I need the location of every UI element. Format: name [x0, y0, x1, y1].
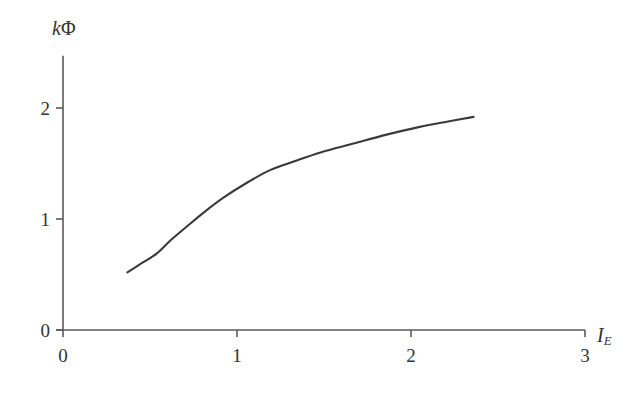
y-axis-tick-label: 0 [34, 321, 50, 340]
x-axis-tick-label: 1 [222, 346, 252, 365]
y-axis-tick-label: 2 [34, 99, 50, 118]
y-axis-title-symbol-k: k [52, 17, 61, 39]
axes-group [56, 56, 585, 330]
x-axis-tick-label: 3 [570, 346, 600, 365]
y-axis-ticks [56, 108, 63, 330]
x-axis-title: IE [597, 325, 612, 347]
x-axis-tick-label: 2 [396, 346, 426, 365]
x-axis-title-subscript-e: E [604, 333, 612, 348]
plot-area [0, 0, 644, 395]
y-axis-title-symbol-phi: Φ [61, 17, 76, 39]
x-axis-tick-label: 0 [48, 346, 78, 365]
x-axis-title-symbol-i: I [597, 324, 604, 346]
data-series-line [127, 117, 473, 272]
chart-figure: 012 0123 kΦ IE [0, 0, 644, 395]
x-axis-ticks [63, 330, 585, 337]
y-axis-tick-label: 1 [34, 210, 50, 229]
y-axis-title: kΦ [52, 18, 76, 38]
